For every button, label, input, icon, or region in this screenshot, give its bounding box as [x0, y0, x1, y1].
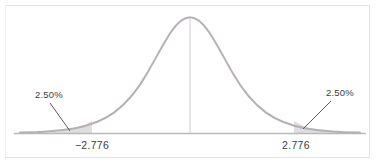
right-tail-percent-label: 2.50%	[326, 87, 354, 98]
left-leader-line	[50, 103, 70, 131]
normal-distribution-chart: 2.50% 2.50% −2.776 2.776	[0, 0, 378, 164]
chart-canvas	[0, 0, 378, 164]
left-tail-percent-label: 2.50%	[35, 89, 63, 100]
right-leader-line	[303, 101, 331, 129]
tick-label-right-critical-value: 2.776	[282, 139, 310, 151]
tick-label-left-critical-value: −2.776	[75, 139, 109, 151]
